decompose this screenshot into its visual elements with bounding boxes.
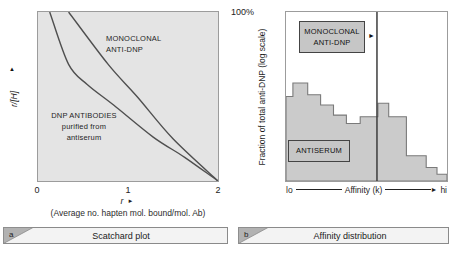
x-tick-2: 2 <box>207 185 229 195</box>
antiserum-annotation-box: ANTISERUM <box>288 140 350 162</box>
panel-a-x-axis-title: r► <box>121 196 134 206</box>
caption-bar-b: b Affinity distribution <box>238 227 449 244</box>
monoclonal-annotation-box: MONOCLONAL ANTI-DNP <box>299 21 365 53</box>
axis-line-right <box>385 189 431 190</box>
y-axis-up-arrow-icon: ▲ <box>9 66 15 72</box>
panel-a-x-axis-sublabel: (Average no. hapten mol. bound/mol. Ab) <box>51 208 206 218</box>
caption-a-title: Scatchard plot <box>92 231 150 241</box>
affinity-axis-title: Affinity (k) <box>342 185 386 195</box>
affinity-distribution-plot-area: MONOCLONAL ANTI-DNP ► ANTISERUM <box>285 11 448 182</box>
affinity-hi-label: hi <box>437 185 448 195</box>
antiserum-histogram <box>286 83 447 181</box>
caption-b-title: Affinity distribution <box>314 231 387 241</box>
axis-right-arrowhead-icon: ► <box>430 186 437 193</box>
caption-b-letter: b <box>244 230 249 239</box>
x-tick-0: 0 <box>26 185 48 195</box>
axis-line-left <box>296 189 342 190</box>
x-tick-1: 1 <box>117 185 139 195</box>
x-axis-right-arrow-icon: ► <box>128 198 134 204</box>
panel-b-y-axis-label: Fraction of total anti-DNP (log scale) <box>257 29 267 166</box>
hundred-percent-label: 100% <box>228 7 254 17</box>
scatchard-affinity-figure: ▲ r/[H] MONOCLONAL ANTI-DNP DNP ANTIBODI… <box>0 0 454 256</box>
panel-a-y-axis-label: r/[H] <box>9 91 19 107</box>
monoclonal-pointer-arrow-icon: ► <box>368 32 375 39</box>
monoclonal-curve-label: MONOCLONAL ANTI-DNP <box>106 33 161 55</box>
x-axis-symbol: r <box>121 196 124 206</box>
caption-bar-a: a Scatchard plot <box>3 227 228 244</box>
panel-b-x-axis: lo Affinity (k) ► hi <box>285 183 448 196</box>
caption-a-letter: a <box>9 230 14 239</box>
antiserum-curve-label: DNP ANTIBODIES purified from antiserum <box>38 110 130 143</box>
affinity-lo-label: lo <box>285 185 296 195</box>
scatchard-plot-area: MONOCLONAL ANTI-DNP DNP ANTIBODIES purif… <box>37 11 219 182</box>
